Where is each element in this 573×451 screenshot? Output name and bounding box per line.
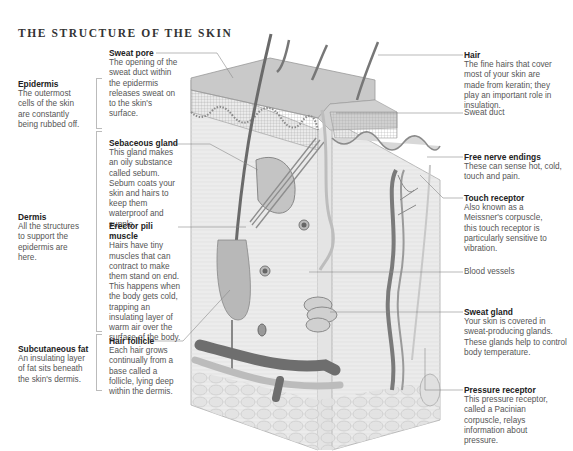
label-hair-follicle: Hair follicle Each hair grows continuall… [109,336,181,397]
label-sebaceous-gland: Sebaceous gland This gland makes an oily… [109,138,181,230]
label-heading: Sweat gland [464,307,568,317]
label-body: Each hair grows continually from a base … [109,346,181,397]
label-body: The fine hairs that cover most of your s… [464,60,562,111]
bracket-tick [96,128,102,129]
label-body: This gland makes an oily substance calle… [109,148,181,230]
layer-label-epidermis: Epidermis The outermost cells of the ski… [18,79,88,130]
label-sweat-pore: Sweat pore The opening of the sweat duct… [109,48,181,119]
layer-label-dermis: Dermis All the structures to support the… [18,212,88,263]
bracket-tick [96,131,102,132]
label-body: The outermost cells of the skin are cons… [18,89,88,130]
label-body: Sweat duct [464,108,562,118]
label-body: These can sense hot, cold, touch and pai… [464,162,562,182]
label-body: Also known as a Meissner's corpuscle, th… [464,203,548,254]
bracket-tick [96,78,102,79]
label-body: Your skin is covered in sweat-producing … [464,317,568,358]
label-heading: Pressure receptor [464,385,554,395]
label-heading: Erector pili muscle [109,221,181,241]
label-body: Blood vessels [464,267,562,277]
layer-bracket-subcutaneous [96,334,97,390]
layer-bracket-dermis [96,131,97,331]
label-body: This pressure receptor, called a Pacinia… [464,395,554,446]
label-hair: Hair The fine hairs that cover most of y… [464,50,562,111]
bracket-tick [96,331,102,332]
bracket-tick [96,390,102,391]
layer-bracket-epidermis [96,78,97,128]
bracket-tick [96,334,102,335]
label-heading: Hair follicle [109,336,181,346]
label-heading: Sweat pore [109,48,181,58]
label-free-nerve-endings: Free nerve endings These can sense hot, … [464,152,562,183]
label-body: The opening of the sweat duct within the… [109,58,181,119]
label-blood-vessels: Blood vessels [464,267,562,277]
label-heading: Subcutaneous fat [18,344,90,354]
label-sweat-duct: Sweat duct [464,108,562,118]
label-pressure-receptor: Pressure receptor This pressure receptor… [464,385,554,446]
label-heading: Epidermis [18,79,88,89]
label-heading: Free nerve endings [464,152,562,162]
label-heading: Sebaceous gland [109,138,181,148]
label-touch-receptor: Touch receptor Also known as a Meissner'… [464,193,548,254]
label-body: Hairs have tiny muscles that can contrac… [109,241,181,343]
label-heading: Hair [464,50,562,60]
layer-label-subcutaneous-fat: Subcutaneous fat An insulating layer of … [18,344,90,385]
label-sweat-gland: Sweat gland Your skin is covered in swea… [464,307,568,358]
label-heading: Dermis [18,212,88,222]
label-body: An insulating layer of fat sits beneath … [18,354,90,385]
label-body: All the structures to support the epider… [18,222,88,263]
label-heading: Touch receptor [464,193,548,203]
label-erector-pili-muscle: Erector pili muscle Hairs have tiny musc… [109,221,181,343]
